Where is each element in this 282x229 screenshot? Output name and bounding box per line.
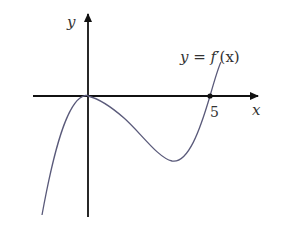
graph-svg: y x 5 y = f′(x) [0, 0, 282, 229]
root-point [207, 93, 212, 98]
derivative-graph: y x 5 y = f′(x) [0, 0, 282, 229]
tick-label-5: 5 [210, 104, 219, 120]
curve-label: y = f′(x) [179, 48, 240, 66]
x-axis-label: x [252, 101, 261, 119]
derivative-curve [42, 62, 221, 215]
y-axis-label: y [66, 13, 76, 31]
